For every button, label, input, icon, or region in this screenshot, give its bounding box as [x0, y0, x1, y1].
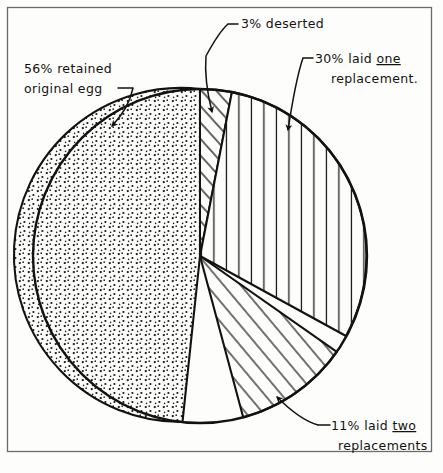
label-two-replacements-line1: 11% laid two — [331, 418, 416, 433]
label-two-replacements-line2: replacements — [338, 438, 428, 453]
label-one-replacement-prefix: 30% laid — [315, 51, 376, 66]
label-one-replacement-emphasis: one — [376, 51, 400, 66]
label-one-replacement-line2: replacement. — [331, 71, 418, 86]
label-deserted-line1: 3% deserted — [241, 16, 324, 31]
pie-chart-figure: 56% retained original egg 3% deserted 30… — [0, 0, 443, 473]
label-two-replacements-prefix: 11% laid — [331, 418, 392, 433]
label-one-replacement-line1: 30% laid one — [315, 51, 401, 66]
label-two-replacements-emphasis: two — [392, 418, 416, 433]
label-retained-line1: 56% retained — [24, 61, 112, 76]
label-retained-line2: original egg — [24, 81, 102, 96]
label-deserted: 3% deserted — [241, 16, 324, 31]
pie-chart-canvas: 56% retained original egg 3% deserted 30… — [0, 0, 443, 473]
